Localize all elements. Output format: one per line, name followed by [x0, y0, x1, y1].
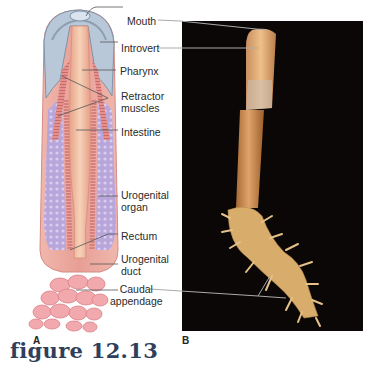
animal-photo-artwork [222, 29, 322, 326]
figure: Mouth Introvert Pharynx Retractor muscle… [0, 0, 383, 380]
label-caudal-appendage: Caudal appendage [110, 283, 163, 307]
label-mouth: Mouth [127, 15, 156, 27]
figure-caption: figure 12.13 [10, 338, 158, 363]
label-urogenital-organ: Urogenital organ [121, 189, 169, 213]
label-introvert: Introvert [121, 42, 160, 54]
anatomy-illustration [29, 10, 118, 332]
label-retractor-muscles: Retractor muscles [121, 90, 164, 114]
label-pharynx: Pharynx [120, 65, 159, 77]
figure-artwork [0, 0, 383, 380]
label-rectum: Rectum [121, 230, 157, 242]
label-urogenital-duct: Urogenital duct [121, 253, 169, 277]
panel-letter-b: B [182, 335, 189, 346]
label-intestine: Intestine [121, 126, 161, 138]
